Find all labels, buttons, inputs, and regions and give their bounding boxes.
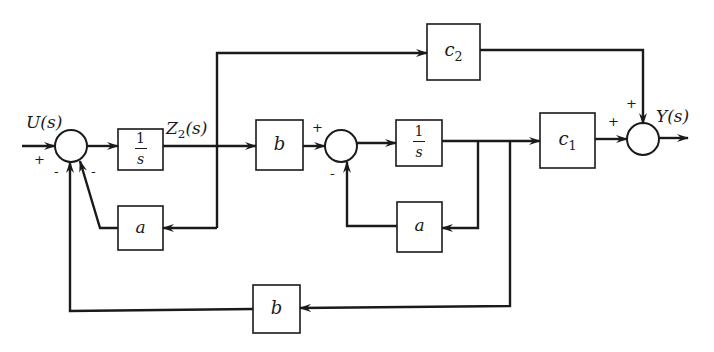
a1-label: a: [118, 217, 163, 237]
summing-junction-2: [325, 130, 357, 162]
c1-label-main: c: [558, 128, 568, 149]
integrator2-num: 1: [396, 124, 442, 138]
state-label-suffix: (s): [185, 118, 207, 138]
fraction-bar: [135, 148, 147, 149]
integrator2-label: 1 s: [396, 124, 442, 159]
c1-label-sub: 1: [569, 138, 577, 153]
integrator1-den: s: [118, 152, 163, 166]
integrator1-label: 1 s: [118, 131, 163, 166]
inner-feedback-line: [442, 141, 478, 228]
c2-label-main: c: [444, 39, 454, 60]
state-label: Z2(s): [166, 118, 207, 141]
integrator1-num: 1: [118, 131, 163, 145]
sum1-minus-outer-sign: -: [54, 164, 59, 179]
block-diagram-canvas: [0, 0, 714, 352]
sum3-plus-c1-sign: +: [608, 114, 619, 129]
a1-to-sum1-line: [80, 161, 118, 228]
sum3-plus-c2-sign: +: [626, 96, 637, 111]
c2-label: c2: [427, 39, 480, 64]
state-label-main: Z: [166, 118, 178, 138]
sum1-plus-sign: +: [34, 152, 45, 167]
b2-label: b: [253, 297, 300, 318]
output-label: Y(s): [656, 106, 689, 126]
summing-junction-3: [627, 123, 659, 155]
c1-label: c1: [540, 128, 595, 153]
a2-to-sum2-line: [347, 162, 397, 226]
c2-label-sub: 2: [455, 49, 463, 64]
summing-junction-1: [55, 130, 87, 162]
b1-label: b: [256, 133, 303, 154]
sum1-minus-inner-sign: -: [91, 164, 96, 179]
input-label: U(s): [26, 112, 62, 132]
integrator2-den: s: [396, 145, 442, 159]
sum2-plus-sign: +: [312, 120, 323, 135]
a2-label: a: [397, 215, 442, 235]
fraction-bar: [413, 141, 425, 142]
sum2-minus-sign: -: [330, 166, 335, 181]
